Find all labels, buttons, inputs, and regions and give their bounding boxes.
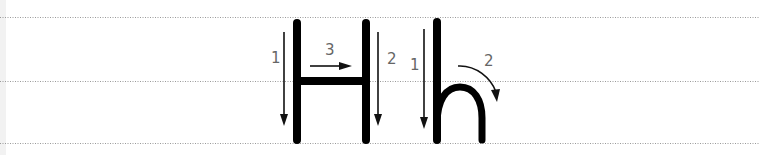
arrow-down-icon [374,114,382,126]
stroke-number-h-3: 3 [325,41,335,59]
arrow-right-icon [339,62,352,70]
stroke-number-h-2: 2 [387,50,397,68]
stroke-arrow-h-2 [374,32,382,126]
stroke-arrow-h-3 [310,62,352,70]
stroke-arrow-h-1 [280,32,288,126]
page-edge-shadow [0,0,6,155]
stroke-arrow-lower-h-1 [420,29,428,129]
arrow-down-icon [420,117,428,129]
curved-arrow-icon [491,89,500,102]
arrow-down-icon [280,114,288,126]
h-lower-arch [437,87,482,140]
stroke-number-lower-h-1: 1 [410,56,420,74]
handwriting-worksheet: 1 2 3 1 2 [0,0,760,155]
stroke-number-h-1: 1 [271,49,281,67]
stroke-number-lower-h-2: 2 [484,52,494,70]
